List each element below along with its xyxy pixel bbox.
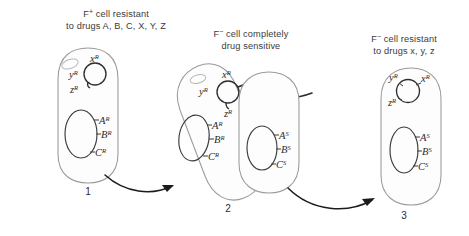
flow-arrow-2-to-3: [288, 188, 375, 209]
cell-1-group: xR yR zR AR BR CR: [58, 48, 118, 183]
cell-3-membrane: [381, 68, 441, 205]
flow-arrow-1-to-2-head: [162, 185, 174, 192]
diagram-canvas: xR yR zR AR BR CR: [0, 0, 469, 236]
flow-arrow-2-to-3-head: [362, 198, 375, 206]
cell-3-group: yR xR zR AS BS CS: [381, 68, 441, 205]
flow-arrow-2-to-3-line: [288, 188, 372, 209]
flow-arrow-1-to-2: [105, 175, 174, 192]
flow-arrow-1-to-2-line: [105, 175, 172, 192]
cell-2-recipient-group: AS BS CS: [239, 72, 299, 193]
cell-2-recipient-membrane: [239, 72, 299, 193]
conjugation-diagram: F+ cell resistant to drugs A, B, C, X, Y…: [0, 0, 469, 236]
